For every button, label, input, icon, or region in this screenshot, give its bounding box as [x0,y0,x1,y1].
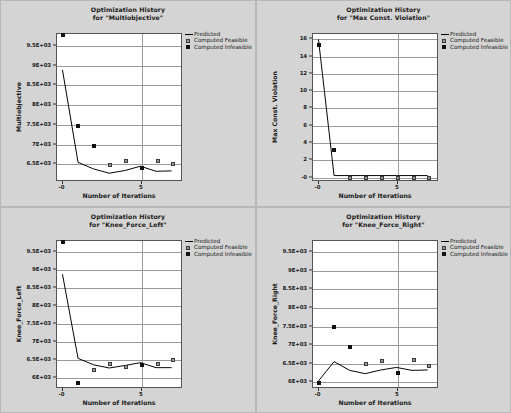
x-axis-title: Number of Iterations [82,399,155,406]
plot-area [56,33,182,181]
y-tick-label: 8.5E+03 [26,284,51,290]
y-axis-title: Knee_Force_Left [15,286,22,343]
y-tick-mark [309,107,312,108]
marker-computed-feasible [427,176,431,180]
y-tick-mark [53,304,56,305]
marker-computed-feasible [108,362,112,366]
marker-computed-feasible [124,159,128,163]
predicted-line [313,34,437,180]
x-tick-label: 5 [139,184,143,190]
legend-square-icon [441,251,449,257]
y-tick-mark [53,64,56,65]
chart-legend: PredictedComputed FeasibleComputed Infea… [185,238,252,257]
y-tick-mark [53,323,56,324]
legend-line-icon [185,31,193,37]
x-tick-label: -0 [315,391,321,397]
y-tick-label: 9E+03 [32,266,51,272]
x-axis-title: Number of Iterations [338,192,411,199]
chart-title-line2: for "Multiobjective" [1,14,255,22]
legend-item[interactable]: Computed Infeasible [441,44,508,50]
predicted-line [313,241,437,387]
predicted-line [57,241,181,387]
y-tick-mark [53,286,56,287]
marker-computed-infeasible [76,124,80,128]
legend-line-icon [441,31,449,37]
marker-computed-infeasible [317,381,321,385]
plot-area [312,33,438,181]
y-tick-mark [309,72,312,73]
y-tick-mark [309,381,312,382]
y-tick-mark [309,306,312,307]
chart-legend: PredictedComputed FeasibleComputed Infea… [185,31,252,50]
marker-computed-feasible [364,176,368,180]
y-tick-label: 6.5E+03 [282,360,307,366]
chart-title-line1: Optimization History [257,6,510,14]
y-tick-mark [309,55,312,56]
y-tick-label: 8E+03 [288,304,307,310]
marker-computed-feasible [412,358,416,362]
y-axis-title: Multiobjective [15,82,22,132]
chart-legend: PredictedComputed FeasibleComputed Infea… [441,238,508,257]
y-tick-mark [53,377,56,378]
legend-line-icon [185,238,193,244]
y-tick-label: 8E+03 [32,302,51,308]
y-tick-mark [53,250,56,251]
y-axis-title: Knee_Force_Right [271,283,278,345]
chart-title-line1: Optimization History [1,6,255,14]
y-tick-label: 7.5E+03 [26,320,51,326]
y-tick-mark [309,124,312,125]
y-tick-label: 9.5E+03 [282,248,307,254]
y-tick-label: 9.5E+03 [26,248,51,254]
marker-computed-infeasible [332,325,336,329]
legend-square-icon [441,38,449,44]
legend-item[interactable]: Computed Infeasible [441,251,508,257]
y-tick-mark [309,90,312,91]
y-tick-mark [309,325,312,326]
y-tick-mark [309,176,312,177]
y-tick-mark [309,269,312,270]
legend-square-icon [185,245,193,251]
marker-computed-infeasible [317,43,321,47]
marker-computed-feasible [108,163,112,167]
y-tick-mark [309,362,312,363]
y-tick-label: 4 [303,139,307,145]
legend-line-icon [441,238,449,244]
y-tick-label: 8.5E+03 [282,285,307,291]
x-tick-label: -0 [59,184,65,190]
y-tick-label: 7.5E+03 [282,323,307,329]
legend-square-icon [441,245,449,251]
chart-panel-max-const-violation: Optimization Historyfor "Max Const. Viol… [256,0,511,207]
legend-item[interactable]: Computed Infeasible [185,251,252,257]
legend-item[interactable]: Computed Infeasible [185,44,252,50]
y-tick-label: 7.5E+03 [26,121,51,127]
chart-panel-knee-force-right: Optimization Historyfor "Knee_Force_Righ… [256,207,511,413]
x-axis-title: Number of Iterations [82,192,155,199]
y-tick-label: 6E+03 [288,378,307,384]
y-tick-label: 9E+03 [32,62,51,68]
y-tick-label: 12 [300,70,307,76]
y-tick-mark [309,344,312,345]
marker-computed-feasible [92,368,96,372]
marker-computed-feasible [124,365,128,369]
y-tick-label: 16 [300,35,307,41]
x-axis-title: Number of Iterations [338,399,411,406]
chart-title-line2: for "Max Const. Violation" [257,14,510,22]
chart-title: Optimization Historyfor "Knee_Force_Righ… [257,213,510,229]
y-tick-mark [309,159,312,160]
x-tick-label: -0 [59,391,65,397]
y-tick-mark [53,359,56,360]
legend-label: Computed Infeasible [194,44,252,50]
marker-computed-infeasible [92,144,96,148]
legend-label: Computed Infeasible [194,251,252,257]
marker-computed-feasible [380,176,384,180]
y-tick-label: 6.5E+03 [26,160,51,166]
y-tick-label: 7E+03 [288,341,307,347]
y-tick-mark [309,288,312,289]
marker-computed-infeasible [140,363,144,367]
y-tick-label: 6.5E+03 [26,356,51,362]
chart-title-line1: Optimization History [1,213,255,221]
legend-square-icon [185,38,193,44]
marker-computed-feasible [348,176,352,180]
marker-computed-infeasible [332,148,336,152]
chart-legend: PredictedComputed FeasibleComputed Infea… [441,31,508,50]
